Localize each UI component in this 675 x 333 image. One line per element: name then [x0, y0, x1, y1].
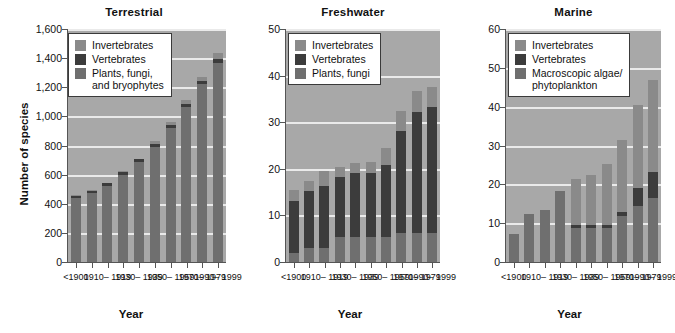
bar[interactable]: [555, 191, 565, 262]
bar-segment-plant: [366, 237, 376, 262]
y-axis-tick: [62, 58, 67, 59]
bar[interactable]: [335, 167, 345, 262]
bar[interactable]: [87, 190, 97, 262]
bar-segment-invert: [366, 162, 376, 173]
legend-swatch-icon: [75, 40, 86, 51]
legend-item[interactable]: Vertebrates: [515, 53, 622, 65]
x-axis-tick: [108, 263, 109, 268]
legend-item[interactable]: Macroscopic algae/ phytoplankton: [515, 67, 622, 91]
bar-segment-plant: [633, 206, 643, 262]
x-axis-tick: [340, 263, 341, 268]
bar[interactable]: [396, 111, 406, 262]
x-axis-tick: [139, 263, 140, 268]
bar-segment-invert: [350, 163, 360, 173]
bar-segment-plant: [304, 248, 314, 262]
bar[interactable]: [412, 91, 422, 262]
bar-segment-invert: [648, 80, 658, 171]
bar[interactable]: [319, 171, 329, 262]
y-axis-tick: [500, 68, 505, 69]
legend-label: Vertebrates: [312, 53, 366, 65]
bar-segment-vert: [412, 112, 422, 233]
bar-segment-vert: [289, 201, 299, 253]
y-axis-tick-label: 600: [44, 169, 62, 181]
legend-label: Invertebrates: [92, 39, 153, 51]
legend-label: Plants, fungi, and bryophytes: [92, 67, 164, 91]
bar[interactable]: [150, 141, 160, 262]
bar-segment-plant: [150, 147, 160, 262]
bar-segment-plant: [213, 63, 223, 263]
y-axis-tick-label: 400: [44, 198, 62, 210]
x-axis-tick: [432, 263, 433, 268]
legend-label: Macroscopic algae/ phytoplankton: [532, 67, 622, 91]
bar-segment-plant: [197, 84, 207, 262]
y-axis-tick: [280, 29, 285, 30]
bar[interactable]: [509, 234, 519, 262]
y-axis-tick-label: 40: [488, 101, 500, 113]
bar[interactable]: [648, 80, 658, 262]
x-axis-tick: [155, 263, 156, 268]
panel-title-terrestrial: Terrestrial: [0, 6, 232, 18]
bar[interactable]: [102, 183, 112, 262]
legend-item[interactable]: Invertebrates: [515, 39, 622, 51]
x-axis-tick: [417, 263, 418, 268]
bar[interactable]: [213, 53, 223, 262]
y-axis-tick: [62, 175, 67, 176]
y-axis-tick: [500, 146, 505, 147]
x-axis-tick: [294, 263, 295, 268]
figure-root: Terrestrial Number of species 0200400600…: [0, 0, 675, 333]
x-axis-title-freshwater: Year: [232, 308, 454, 320]
legend-item[interactable]: Vertebrates: [75, 53, 164, 65]
bar[interactable]: [118, 171, 128, 262]
bar[interactable]: [524, 214, 534, 262]
y-axis-tick: [62, 87, 67, 88]
bar[interactable]: [181, 100, 191, 262]
bar[interactable]: [571, 179, 581, 262]
legend-item[interactable]: Vertebrates: [295, 53, 373, 65]
bar-segment-plant: [648, 198, 658, 262]
bar[interactable]: [366, 162, 376, 262]
legend-swatch-icon: [75, 54, 86, 65]
legend-freshwater: InvertebratesVertebratesPlants, fungi: [288, 33, 381, 85]
x-axis-tick: [576, 263, 577, 268]
x-axis-tick: [560, 263, 561, 268]
y-axis-line-marine: [505, 29, 506, 263]
x-axis-tick: [123, 263, 124, 268]
bar[interactable]: [71, 195, 81, 262]
bar-segment-plant: [617, 216, 627, 262]
bar-segment-invert: [396, 111, 406, 131]
legend-swatch-icon: [295, 68, 306, 79]
y-axis-tick: [500, 184, 505, 185]
legend-item[interactable]: Plants, fungi, and bryophytes: [75, 67, 164, 91]
y-axis-tick-label: 40: [268, 70, 280, 82]
bar[interactable]: [586, 175, 596, 262]
bar[interactable]: [350, 163, 360, 262]
legend-swatch-icon: [295, 54, 306, 65]
bar[interactable]: [197, 77, 207, 262]
bar[interactable]: [134, 159, 144, 262]
bar-segment-plant: [181, 107, 191, 262]
legend-item[interactable]: Invertebrates: [75, 39, 164, 51]
bar-segment-invert: [412, 91, 422, 112]
bar-segment-plant: [166, 128, 176, 262]
bar[interactable]: [540, 210, 550, 262]
x-axis-tick: [545, 263, 546, 268]
bar[interactable]: [617, 140, 627, 262]
legend-label: Vertebrates: [92, 53, 146, 65]
bar-segment-plant: [71, 198, 81, 262]
bar[interactable]: [304, 181, 314, 262]
bar[interactable]: [602, 164, 612, 262]
x-axis-tick: [638, 263, 639, 268]
bar[interactable]: [427, 87, 437, 262]
legend-label: Invertebrates: [532, 39, 593, 51]
legend-item[interactable]: Invertebrates: [295, 39, 373, 51]
bar[interactable]: [166, 122, 176, 262]
bar[interactable]: [289, 190, 299, 262]
bar-segment-plant: [396, 233, 406, 262]
legend-item[interactable]: Plants, fungi: [295, 67, 373, 79]
bar[interactable]: [381, 148, 391, 262]
bar[interactable]: [633, 105, 643, 262]
legend-label: Plants, fungi: [312, 67, 370, 79]
panel-terrestrial: Terrestrial Number of species 0200400600…: [0, 0, 232, 333]
bar-segment-plant: [571, 228, 581, 262]
y-axis-tick: [62, 29, 67, 30]
